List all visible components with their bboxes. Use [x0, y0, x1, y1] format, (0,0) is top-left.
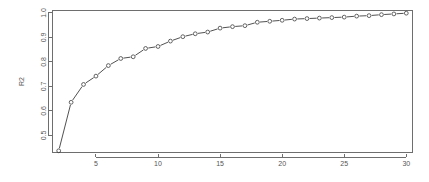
y-tick-label: 0.9: [41, 32, 48, 42]
r2-line-chart: 0.50.60.70.80.91.0 51015202530 R2: [0, 0, 429, 182]
y-tick-label: 0.7: [41, 81, 48, 91]
chart-canvas: 0.50.60.70.80.91.0 51015202530 R2: [0, 0, 429, 182]
series-segment: [372, 15, 379, 16]
x-tick-label: 10: [154, 160, 162, 167]
x-tick-label: 15: [216, 160, 224, 167]
y-tick-label: 1.0: [41, 8, 48, 18]
series-segment: [347, 16, 354, 17]
chart-background: [0, 0, 429, 182]
y-tick-label: 0.5: [41, 130, 48, 140]
y-tick-label: 0.6: [41, 106, 48, 116]
x-tick-label: 5: [94, 160, 98, 167]
axis-titles: R2: [18, 77, 25, 86]
x-tick-label: 20: [278, 160, 286, 167]
x-tick-label: 25: [340, 160, 348, 167]
series-segment: [272, 21, 279, 22]
y-axis-title: R2: [18, 77, 25, 86]
y-tick-label: 0.8: [41, 57, 48, 67]
x-tick-label: 30: [402, 160, 410, 167]
series-segment: [260, 21, 267, 22]
series-segment: [235, 26, 242, 27]
